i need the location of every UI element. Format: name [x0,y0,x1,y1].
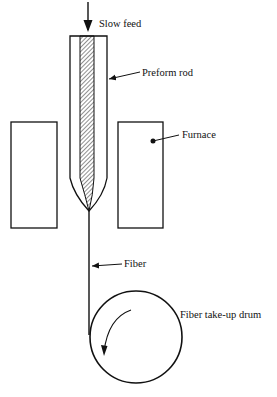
furnace-label: Furnace [182,129,216,140]
take-up-drum [90,291,182,383]
furnace-right [118,122,163,228]
slow-feed-label: Slow feed [99,18,142,29]
preform-core [80,36,94,211]
drum-label: Fiber take-up drum [180,309,261,320]
preform-rod-label: Preform rod [142,67,194,78]
furnace-left [11,122,57,228]
fiber-label: Fiber [124,258,147,269]
slow-feed-arrow-icon [84,2,93,32]
fiber-drawing-diagram: Slow feed Preform rod Furnace Fiber Fibe… [0,0,277,397]
